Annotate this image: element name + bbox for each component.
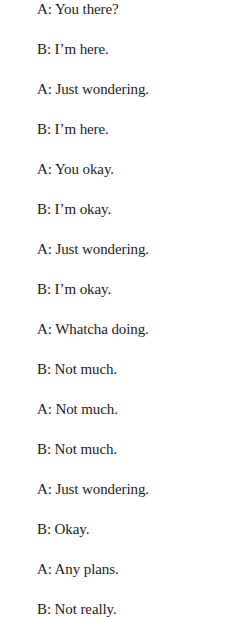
- dialogue-line: B: Not much.: [37, 440, 149, 480]
- dialogue-line: B: I’m okay.: [37, 200, 149, 240]
- dialogue-line: A: Just wondering.: [37, 80, 149, 120]
- dialogue-line: B: Okay.: [37, 520, 149, 560]
- dialogue-line: B: I’m here.: [37, 40, 149, 80]
- dialogue-transcript: A: You there? B: I’m here. A: Just wonde…: [37, 0, 149, 617]
- dialogue-line: B: Not much.: [37, 360, 149, 400]
- dialogue-line: A: You there?: [37, 0, 149, 40]
- dialogue-line: A: Any plans.: [37, 560, 149, 600]
- dialogue-line: A: Not much.: [37, 400, 149, 440]
- dialogue-line: B: I’m okay.: [37, 280, 149, 320]
- dialogue-line: A: You okay.: [37, 160, 149, 200]
- dialogue-line: A: Just wondering.: [37, 240, 149, 280]
- dialogue-line: B: Not really.: [37, 600, 149, 617]
- dialogue-line: A: Just wondering.: [37, 480, 149, 520]
- dialogue-line: B: I’m here.: [37, 120, 149, 160]
- dialogue-line: A: Whatcha doing.: [37, 320, 149, 360]
